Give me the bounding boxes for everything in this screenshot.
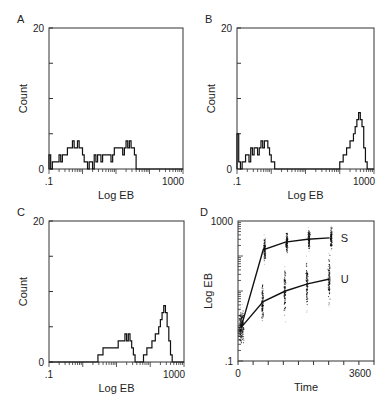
data-point [327, 269, 328, 270]
data-point [239, 331, 240, 332]
data-point [329, 305, 330, 306]
data-point [239, 309, 240, 310]
data-point [285, 286, 286, 287]
data-point [261, 308, 262, 309]
data-point [331, 241, 332, 242]
data-point [264, 254, 265, 255]
data-point [243, 340, 244, 341]
panel-letter: B [205, 13, 212, 25]
data-point [309, 236, 310, 237]
x-tick-label-max: 1000 [163, 369, 186, 380]
data-point [262, 314, 263, 315]
data-point [329, 268, 330, 269]
data-point [305, 273, 306, 274]
data-point [309, 231, 310, 232]
data-point [265, 241, 266, 242]
x-axis-title: Log EB [98, 189, 134, 201]
data-point [285, 282, 286, 283]
data-point [286, 249, 287, 250]
data-point [328, 275, 329, 276]
histogram-line [49, 306, 184, 362]
data-point [309, 245, 310, 246]
x-axis-title: Log EB [98, 382, 134, 394]
data-point [264, 247, 265, 248]
data-point [286, 250, 287, 251]
data-point [239, 336, 240, 337]
data-point [241, 318, 242, 319]
data-point [308, 227, 309, 228]
data-point [306, 279, 307, 280]
data-point [328, 280, 329, 281]
y-tick-label-max: 1000 [211, 216, 234, 227]
data-point [243, 331, 244, 332]
data-point [306, 312, 307, 313]
data-point [329, 261, 330, 262]
data-point [262, 295, 263, 296]
scatter-panel-d: D1000.103600TimeLog EBSU [200, 206, 374, 393]
data-point [329, 286, 330, 287]
data-point [262, 305, 263, 306]
data-point [262, 309, 263, 310]
figure: A200.11000Log EBCount B200.11000Log EBCo… [0, 0, 388, 409]
data-point [307, 310, 308, 311]
data-point [307, 304, 308, 305]
data-point [329, 302, 330, 303]
series-label-u: U [341, 273, 349, 285]
data-point [284, 315, 285, 316]
data-point [242, 334, 243, 335]
data-point [240, 325, 241, 326]
data-point [264, 234, 265, 235]
data-point [331, 231, 332, 232]
data-point [307, 287, 308, 288]
data-point [287, 234, 288, 235]
data-point [309, 244, 310, 245]
data-point [243, 310, 244, 311]
data-point [265, 251, 266, 252]
data-point [265, 253, 266, 254]
data-point [284, 271, 285, 272]
data-point [284, 298, 285, 299]
data-point [306, 295, 307, 296]
data-point [331, 239, 332, 240]
data-point [331, 227, 332, 228]
data-point [286, 236, 287, 237]
histogram-line [237, 113, 374, 169]
data-point [262, 297, 263, 298]
data-point [329, 299, 330, 300]
data-point [306, 289, 307, 290]
data-point [240, 330, 241, 331]
data-point [328, 296, 329, 297]
data-point [240, 307, 241, 308]
data-point [287, 252, 288, 253]
data-point [285, 280, 286, 281]
data-point [284, 301, 285, 302]
data-point [331, 249, 332, 250]
data-point [284, 281, 285, 282]
series-label-s: S [341, 232, 348, 244]
data-point [306, 296, 307, 297]
data-point [306, 294, 307, 295]
data-point [285, 295, 286, 296]
data-point [239, 324, 240, 325]
data-point [329, 260, 330, 261]
y-tick-label-min: .1 [225, 356, 234, 367]
y-axis-title: Log EB [202, 273, 214, 309]
data-point [283, 310, 284, 311]
data-point [243, 327, 244, 328]
y-tick-label-max: 20 [33, 23, 45, 34]
data-point [306, 272, 307, 273]
data-point [240, 334, 241, 335]
data-point [264, 264, 265, 265]
data-point [307, 292, 308, 293]
data-point [242, 320, 243, 321]
data-point [262, 320, 263, 321]
data-point [308, 276, 309, 277]
data-point [328, 270, 329, 271]
data-point [306, 276, 307, 277]
data-point [284, 277, 285, 278]
data-point [242, 313, 243, 314]
data-point [240, 314, 241, 315]
data-point [330, 238, 331, 239]
data-point [330, 276, 331, 277]
data-point [306, 263, 307, 264]
